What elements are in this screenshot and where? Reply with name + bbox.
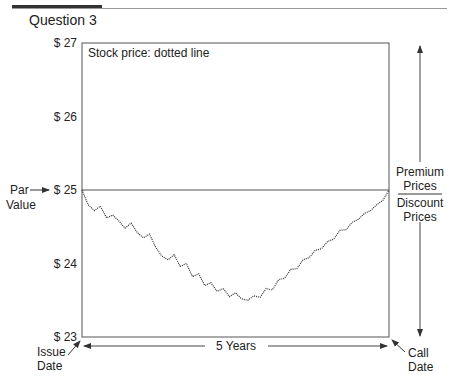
svg-text:Prices: Prices [403,179,436,193]
call-date-annotation: Call Date [392,340,434,374]
y-tick-label: $ 26 [54,110,78,124]
call-arrow-icon [392,340,405,352]
y-tick-label: $ 24 [54,257,78,271]
y-tick-label: $ 23 [54,330,78,344]
y-tick-label: $ 27 [54,36,78,50]
svg-text:Prices: Prices [403,210,436,224]
stock-price-dotted-line [82,190,389,300]
par-value-annotation: Par Value [6,183,49,212]
issue-date-annotation: Issue Date [37,341,80,373]
bond-price-chart: $ 27$ 26$ 25$ 24$ 23 Stock price: dotted… [0,0,454,388]
svg-text:Premium: Premium [396,165,444,179]
svg-text:Value: Value [6,198,36,212]
svg-text:Par: Par [10,183,29,197]
svg-text:Date: Date [408,360,434,374]
x-axis-label: 5 Years [216,339,256,353]
svg-text:Issue: Issue [37,345,66,359]
legend-note: Stock price: dotted line [88,46,210,60]
svg-text:Call: Call [408,346,429,360]
svg-text:Discount: Discount [397,196,444,210]
svg-text:Date: Date [37,359,63,373]
y-tick-label: $ 25 [54,183,78,197]
premium-discount-labels: Premium Prices Discount Prices [396,165,444,224]
